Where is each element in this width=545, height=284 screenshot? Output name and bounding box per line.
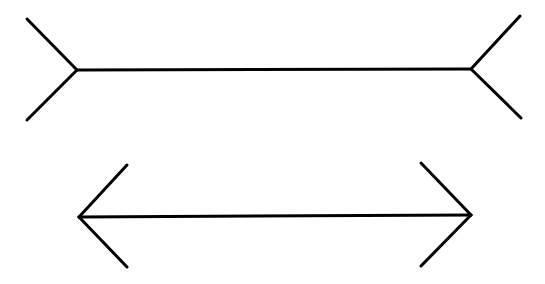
fin-line — [471, 16, 520, 69]
muller-lyer-figure — [0, 0, 545, 284]
fin-line — [421, 215, 471, 266]
top-line-fins-out — [27, 16, 521, 120]
fin-line — [27, 19, 77, 70]
shaft-line — [77, 69, 471, 70]
fin-line — [421, 163, 471, 215]
fin-line — [79, 165, 127, 217]
fin-line — [79, 217, 127, 267]
bottom-line-arrowheads — [79, 163, 471, 267]
fin-line — [471, 69, 521, 118]
illusion-canvas — [0, 0, 545, 284]
shaft-line — [79, 215, 471, 217]
fin-line — [27, 70, 77, 120]
